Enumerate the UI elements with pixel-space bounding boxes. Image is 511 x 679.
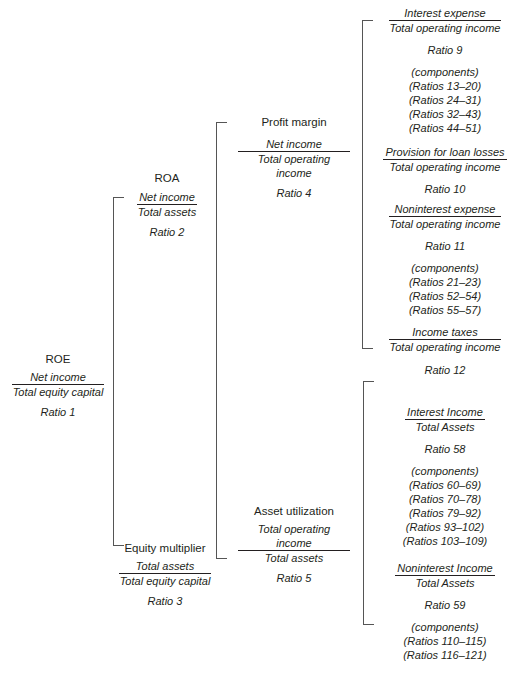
roe-denominator: Total equity capital xyxy=(12,385,105,399)
roa-title: ROA xyxy=(120,171,214,185)
equity-multiplier-numerator: Total assets xyxy=(119,559,212,574)
interest-income-denominator: Total Assets xyxy=(405,420,485,434)
equity-multiplier-denominator: Total equity capital xyxy=(119,574,212,588)
interest-income-node: Interest Income Total Assets Ratio 58 (c… xyxy=(380,405,510,548)
roa-node: ROA Net income Total assets Ratio 2 xyxy=(120,171,214,239)
roa-ratio: Ratio 2 xyxy=(120,225,214,239)
equity-multiplier-node: Equity multiplier Total assets Total equ… xyxy=(115,541,215,608)
noninterest-expense-denominator: Total operating income xyxy=(389,217,502,231)
provision-loan-losses-node: Provision for loan losses Total operatin… xyxy=(380,145,510,196)
income-taxes-denominator: Total operating income xyxy=(389,340,502,354)
interest-expense-formula: Interest expense Total operating income xyxy=(389,6,502,35)
roe-formula: Net income Total equity capital xyxy=(12,370,105,399)
profit-margin-bracket xyxy=(362,20,373,349)
profit-margin-ratio: Ratio 4 xyxy=(238,186,350,200)
equity-multiplier-ratio: Ratio 3 xyxy=(115,594,215,608)
profit-margin-title: Profit margin xyxy=(238,115,350,129)
interest-expense-denominator: Total operating income xyxy=(389,21,502,35)
interest-expense-ratio: Ratio 9 xyxy=(380,43,510,57)
noninterest-expense-component: (Ratios 21–23) xyxy=(380,275,510,289)
interest-income-component: (Ratios 70–78) xyxy=(380,492,510,506)
interest-expense-components-label: (components) xyxy=(380,65,510,79)
noninterest-income-denominator: Total Assets xyxy=(395,576,494,590)
interest-expense-component: (Ratios 24–31) xyxy=(380,93,510,107)
profit-margin-node: Profit margin Net income Total operating… xyxy=(238,115,350,200)
noninterest-expense-component: (Ratios 52–54) xyxy=(380,289,510,303)
profit-margin-denominator: Total operating income xyxy=(238,152,350,180)
noninterest-income-formula: Noninterest Income Total Assets xyxy=(395,561,494,590)
roa-numerator: Net income xyxy=(137,190,197,205)
income-taxes-node: Income taxes Total operating income Rati… xyxy=(380,325,510,377)
asset-utilization-title: Asset utilization xyxy=(238,504,350,518)
noninterest-expense-node: Noninterest expense Total operating inco… xyxy=(380,202,510,317)
provision-loan-losses-numerator: Provision for loan losses xyxy=(383,145,506,160)
interest-income-component: (Ratios 103–109) xyxy=(380,534,510,548)
income-taxes-numerator: Income taxes xyxy=(389,325,502,340)
noninterest-income-component: (Ratios 116–121) xyxy=(380,648,510,662)
noninterest-expense-components-label: (components) xyxy=(380,261,510,275)
noninterest-income-numerator: Noninterest Income xyxy=(395,561,494,576)
equity-multiplier-formula: Total assets Total equity capital xyxy=(119,559,212,588)
roe-node: ROE Net income Total equity capital Rati… xyxy=(4,352,112,419)
noninterest-expense-component: (Ratios 55–57) xyxy=(380,303,510,317)
noninterest-expense-ratio: Ratio 11 xyxy=(380,239,510,253)
provision-loan-losses-formula: Provision for loan losses Total operatin… xyxy=(383,145,506,174)
asset-utilization-numerator: Total operating income xyxy=(238,522,350,551)
interest-expense-numerator: Interest expense xyxy=(389,6,502,21)
roe-title: ROE xyxy=(4,352,112,366)
asset-utilization-denominator: Total assets xyxy=(238,551,350,565)
interest-expense-component: (Ratios 13–20) xyxy=(380,79,510,93)
asset-utilization-node: Asset utilization Total operating income… xyxy=(238,504,350,585)
interest-income-ratio: Ratio 58 xyxy=(380,442,510,456)
roe-numerator: Net income xyxy=(12,370,105,385)
noninterest-income-node: Noninterest Income Total Assets Ratio 59… xyxy=(380,561,510,662)
asset-utilization-formula: Total operating income Total assets xyxy=(238,522,350,565)
equity-multiplier-title: Equity multiplier xyxy=(115,541,215,555)
interest-income-components-label: (components) xyxy=(380,464,510,478)
noninterest-expense-numerator: Noninterest expense xyxy=(389,202,502,217)
provision-loan-losses-ratio: Ratio 10 xyxy=(380,182,510,196)
roa-formula: Net income Total assets xyxy=(137,190,197,219)
provision-loan-losses-denominator: Total operating income xyxy=(383,160,506,174)
roe-bracket xyxy=(113,197,124,546)
profit-margin-numerator: Net income xyxy=(238,137,350,152)
roe-ratio: Ratio 1 xyxy=(4,405,112,419)
income-taxes-formula: Income taxes Total operating income xyxy=(389,325,502,354)
interest-expense-component: (Ratios 32–43) xyxy=(380,107,510,121)
noninterest-income-component: (Ratios 110–115) xyxy=(380,634,510,648)
asset-utilization-ratio: Ratio 5 xyxy=(238,571,350,585)
asset-utilization-bracket xyxy=(363,381,374,625)
interest-income-formula: Interest Income Total Assets xyxy=(405,405,485,434)
roa-denominator: Total assets xyxy=(137,205,197,219)
roa-bracket xyxy=(216,122,227,559)
income-taxes-ratio: Ratio 12 xyxy=(380,363,510,377)
noninterest-expense-formula: Noninterest expense Total operating inco… xyxy=(389,202,502,231)
interest-expense-component: (Ratios 44–51) xyxy=(380,121,510,135)
interest-income-component: (Ratios 79–92) xyxy=(380,506,510,520)
interest-income-numerator: Interest Income xyxy=(405,405,485,420)
noninterest-income-ratio: Ratio 59 xyxy=(380,598,510,612)
interest-expense-node: Interest expense Total operating income … xyxy=(380,6,510,135)
profit-margin-formula: Net income Total operating income xyxy=(238,137,350,180)
noninterest-income-components-label: (components) xyxy=(380,620,510,634)
interest-income-component: (Ratios 60–69) xyxy=(380,478,510,492)
interest-income-component: (Ratios 93–102) xyxy=(380,520,510,534)
